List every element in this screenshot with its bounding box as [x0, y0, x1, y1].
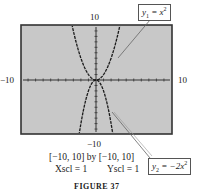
yscl-caption: Yscl = 1	[107, 164, 139, 174]
callout-y2: y2 = −2x2	[148, 158, 191, 175]
y-max-label: 10	[90, 12, 99, 22]
callout-y1-rhs: = x	[149, 7, 164, 17]
callout-y2-rhs: = −2x	[159, 161, 184, 171]
x-max-label: 10	[178, 75, 187, 85]
window-caption: [−10, 10] by [−10, 10]	[49, 152, 134, 162]
figure-caption: FIGURE 37	[74, 182, 120, 191]
x-min-label: −10	[0, 75, 14, 85]
y-min-label: −10	[87, 139, 101, 149]
xscl-caption: Xscl = 1	[55, 164, 87, 174]
callout-y1: y1 = x2	[138, 4, 171, 21]
callout-y2-exp: 2	[184, 160, 187, 166]
callout-y1-exp: 2	[164, 6, 167, 12]
